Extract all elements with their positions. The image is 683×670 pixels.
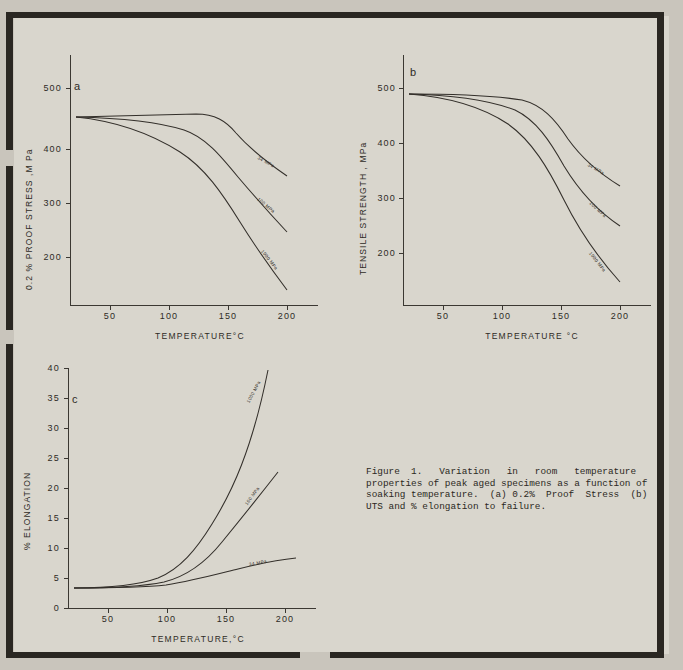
figure-caption-line: UTS and % elongation to failure. [366, 501, 664, 513]
figure-caption-line: soaking temperature. (a) 0.2% Proof Stre… [366, 489, 664, 501]
chart-panel-a: a 200 300 400 500 0.2 % PROOF STRESS ,M … [0, 0, 350, 340]
panel-b-curves [350, 0, 683, 340]
figure-caption-line: Figure 1. Variation in room temperature [366, 466, 664, 478]
panel-c-curve-100mpa [74, 472, 278, 588]
panel-c-curves [0, 340, 350, 670]
figure-caption-line: properties of peak aged specimens as a f… [366, 478, 664, 490]
panel-c-curve-1000mpa [74, 370, 268, 588]
panel-a-curve-34mpa [76, 114, 287, 176]
chart-panel-b: b 200 300 400 500 TENSILE STRENGTH , MPa… [350, 0, 683, 340]
chart-panel-c: c 0 5 10 15 20 25 30 35 40 % ELONGATION … [0, 340, 350, 670]
panel-b-curve-100mpa [409, 94, 620, 226]
panel-a-curve-1000mpa [76, 117, 287, 290]
panel-b-curve-34mpa [409, 94, 620, 186]
panel-a-curve-100mpa [76, 117, 287, 232]
panel-a-curves [0, 0, 350, 340]
scanned-page: a 200 300 400 500 0.2 % PROOF STRESS ,M … [0, 0, 683, 670]
figure-caption: Figure 1. Variation in room temperature … [366, 466, 664, 512]
